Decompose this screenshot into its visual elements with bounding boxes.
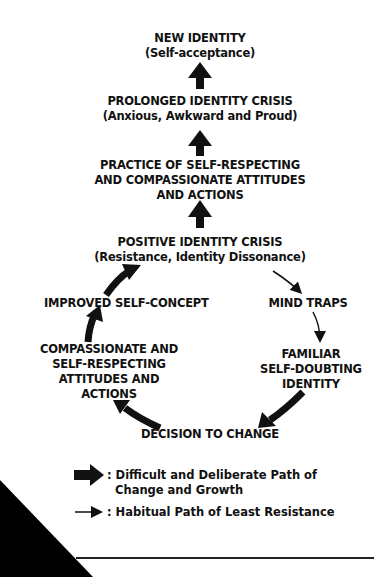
node-mind-traps: MIND TRAPS: [268, 296, 348, 311]
node-line: AND ACTIONS: [70, 188, 330, 203]
thick-arrow-up-2: [188, 130, 212, 156]
node-title: NEW IDENTITY: [154, 31, 245, 45]
node-new-identity: NEW IDENTITY (Self-acceptance): [100, 31, 300, 61]
node-prolonged-identity-crisis: PROLONGED IDENTITY CRISIS (Anxious, Awkw…: [70, 94, 330, 124]
node-line: ACTIONS: [34, 387, 184, 402]
node-title: MIND TRAPS: [268, 296, 347, 310]
thick-arrow-familiar-to-decision: [270, 392, 303, 420]
node-subtitle: (Anxious, Awkward and Proud): [70, 109, 330, 124]
legend-thick-arrow-icon: [74, 464, 104, 486]
thin-arrow-mind-traps-to-familiar: [313, 312, 320, 340]
thick-arrow-up-3: [188, 200, 212, 228]
node-line: SELF-DOUBTING: [256, 362, 366, 377]
node-line: AND COMPASSIONATE ATTITUDES: [70, 173, 330, 188]
node-title: POSITIVE IDENTITY CRISIS: [118, 235, 283, 249]
node-practice: PRACTICE OF SELF-RESPECTING AND COMPASSI…: [70, 158, 330, 203]
node-title: PROLONGED IDENTITY CRISIS: [107, 94, 292, 108]
thick-arrow-improved-to-positive: [106, 272, 128, 295]
thick-arrow-decision-to-compassionate: [125, 408, 160, 428]
node-line: IDENTITY: [256, 377, 366, 392]
thick-arrow-up-1: [188, 62, 212, 89]
node-line: SELF-RESPECTING: [34, 357, 184, 372]
legend-thin: : Habitual Path of Least Resistance: [107, 505, 335, 520]
node-familiar: FAMILIAR SELF-DOUBTING IDENTITY: [256, 347, 366, 392]
legend-thick-label-2: Change and Growth: [107, 483, 243, 497]
node-title: DECISION TO CHANGE: [141, 427, 279, 441]
node-line: ATTITUDES AND: [34, 372, 184, 387]
node-decision-to-change: DECISION TO CHANGE: [130, 427, 290, 442]
node-title: IMPROVED SELF-CONCEPT: [44, 296, 209, 310]
node-compassionate: COMPASSIONATE AND SELF-RESPECTING ATTITU…: [34, 342, 184, 402]
node-line: COMPASSIONATE AND: [34, 342, 184, 357]
legend-thin-label: : Habitual Path of Least Resistance: [107, 505, 335, 519]
node-positive-identity-crisis: POSITIVE IDENTITY CRISIS (Resistance, Id…: [80, 235, 320, 265]
thin-arrow-positive-to-mind-traps: [273, 271, 300, 292]
node-line: PRACTICE OF SELF-RESPECTING: [70, 158, 330, 173]
horizontal-rule: [76, 557, 374, 559]
node-subtitle: (Self-acceptance): [100, 46, 300, 61]
node-subtitle: (Resistance, Identity Dissonance): [80, 250, 320, 265]
legend-thick-label: : Difficult and Deliberate Path of: [107, 468, 317, 482]
node-line: FAMILIAR: [256, 347, 366, 362]
node-improved-self-concept: IMPROVED SELF-CONCEPT: [44, 296, 224, 311]
legend-thick: : Difficult and Deliberate Path of Chang…: [107, 468, 317, 498]
